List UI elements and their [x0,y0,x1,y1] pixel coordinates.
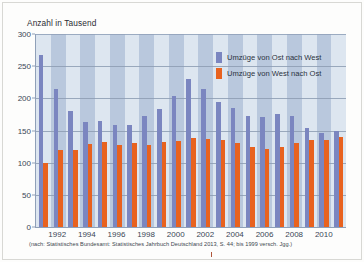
bar-west-east [221,140,226,227]
bar-west-east [117,145,122,227]
bar-west-east [339,137,344,227]
x-axis-tick-label: 2010 [315,230,333,239]
bar-west-east [309,140,314,227]
chart-legend: Umzüge von Ost nach West Umzüge von West… [216,52,321,84]
bar-west-east [235,143,240,227]
bar-group [51,34,66,227]
bar-west-east [147,145,152,227]
bar-west-east [162,142,167,227]
migration-bar-chart-figure: Anzahl in Tausend 050100150200250300 199… [0,0,364,262]
bar-group [169,34,184,227]
y-axis-tick-label: 300 [18,30,31,39]
bar-group [80,34,95,227]
bar-west-east [294,143,299,227]
y-axis-title: Anzahl in Tausend [27,18,96,28]
bar-west-east [250,147,255,227]
legend-label-east-west: Umzüge von Ost nach West [227,53,321,62]
legend-swatch-west-east-icon [216,68,222,79]
x-axis-tick-label: 1992 [48,230,66,239]
bar-group [139,34,154,227]
y-axis-tick-label: 0 [27,223,31,232]
bar-west-east [280,147,285,227]
legend-label-west-east: Umzüge von West nach Ost [227,69,321,78]
bar-group [198,34,213,227]
x-axis-tick-label: 2006 [256,230,274,239]
source-citation: (nach: Statistisches Bundesamt: Statisti… [29,241,292,247]
bar-west-east [73,150,78,227]
y-axis-tick-label: 250 [18,62,31,71]
x-axis-tick-label: 2004 [226,230,244,239]
bar-group [125,34,140,227]
bar-group [184,34,199,227]
legend-item-east-west: Umzüge von Ost nach West [216,52,321,63]
bar-west-east [132,143,137,227]
y-axis-tick-label: 200 [18,94,31,103]
bar-group [95,34,110,227]
y-axis-tick-label: 50 [22,190,31,199]
bar-west-east [176,141,181,227]
x-axis-tick-label: 1994 [78,230,96,239]
bar-group [154,34,169,227]
bar-west-east [206,139,211,227]
y-axis-tick-label: 150 [18,126,31,135]
x-axis-tick-label: 2000 [167,230,185,239]
bar-group [331,34,346,227]
x-axis-tick-label: 1996 [108,230,126,239]
legend-item-west-east: Umzüge von West nach Ost [216,68,321,79]
bar-group [66,34,81,227]
x-axis-tick-label: 2002 [196,230,214,239]
print-registration-mark [211,252,212,257]
bar-group [36,34,51,227]
y-axis-tick-label: 100 [18,158,31,167]
bar-west-east [58,150,63,227]
bar-group [110,34,125,227]
bar-west-east [43,163,48,227]
x-axis-tick-label: 2008 [285,230,303,239]
bar-west-east [102,142,107,227]
bar-west-east [88,144,93,227]
x-axis-tick-label: 1998 [137,230,155,239]
legend-swatch-east-west-icon [216,52,222,63]
bar-west-east [324,140,329,227]
bar-west-east [265,149,270,227]
y-axis: 050100150200250300 [0,34,35,228]
bar-west-east [191,138,196,227]
